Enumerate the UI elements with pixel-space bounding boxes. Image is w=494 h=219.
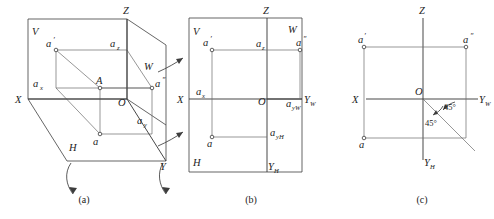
label-plane-h-a: H: [68, 142, 78, 153]
point-a-prime-a: [54, 48, 58, 52]
panel-a: V H W X Y Z O A a ′ a ″ a a x a y: [14, 5, 170, 206]
label-ax-a: a x: [33, 78, 43, 91]
label-az-b: a z: [256, 38, 265, 51]
label-axis-x-c: X: [351, 94, 359, 105]
label-ayw-base-b: a: [286, 98, 291, 109]
label-ayh-sub-b: yH: [275, 133, 285, 140]
axis-y-a: [127, 99, 166, 161]
label-a-prime-mark-b: ′: [210, 35, 212, 44]
label-axis-x-a: X: [14, 94, 22, 105]
label-angle-upper-c: 45°: [444, 102, 456, 112]
label-ayw-b: a yW: [286, 98, 301, 111]
label-plane-w-b: W: [288, 24, 298, 35]
label-ax-base-b: a: [196, 86, 201, 97]
label-point-A-a: A: [95, 75, 103, 86]
label-ay-base-a: a: [137, 115, 142, 126]
unfold-arrow-lower-head: [176, 132, 183, 138]
panel-b: V H W X Z O Y W Y H a ′ a ″ a: [158, 5, 316, 206]
plane-h-left-edge: [28, 99, 67, 161]
plane-edge-top-right: [127, 19, 166, 45]
label-a-prime-mark-c: ′: [364, 32, 366, 41]
label-plane-w-a: W: [144, 61, 154, 72]
point-a-dprime-a: [150, 86, 154, 90]
label-ax-b: a x: [196, 86, 205, 99]
technical-drawing-svg: V H W X Y Z O A a ′ a ″ a a x a y: [0, 0, 494, 219]
label-az-a: a z: [110, 38, 120, 51]
label-axis-yw-c: Y W: [479, 94, 491, 107]
label-plane-v-b: V: [193, 26, 201, 37]
label-plane-h-b: H: [192, 157, 202, 168]
label-ax-sub-b: x: [201, 92, 205, 99]
label-plane-v-a: V: [32, 26, 40, 37]
label-a-prime-c: a ′: [358, 32, 366, 45]
label-axis-z-a: Z: [123, 5, 129, 16]
point-a-top-a: [98, 132, 102, 136]
point-a-prime-b: [210, 48, 214, 52]
label-a-dprime-base-a: a: [155, 78, 160, 89]
label-axis-yw-sub-b: W: [310, 100, 316, 107]
caption-panel-c: (c): [416, 194, 427, 206]
point-a-prime-c: [362, 45, 366, 49]
label-axis-yh-c: Y H: [424, 157, 436, 170]
label-axis-yh-sub-b: H: [273, 167, 280, 174]
figure-root: V H W X Y Z O A a ′ a ″ a a x a y: [0, 0, 494, 219]
caption-panel-b: (b): [245, 194, 257, 206]
panel-c: Z X O Y W Y H a ′ a ″ a 45° 45° (c): [351, 5, 491, 206]
label-axis-yw-b: Y W: [304, 94, 316, 107]
label-a-dprime-a: a ″: [155, 76, 166, 89]
label-a-prime-b: a ′: [203, 35, 212, 48]
label-a-dprime-mark-b: ″: [303, 35, 307, 44]
label-axis-y-a: Y: [160, 161, 167, 172]
label-a-dprime-mark-a: ″: [162, 76, 166, 85]
label-ayh-b: a yH: [270, 127, 285, 140]
label-ayh-base-b: a: [270, 127, 275, 138]
point-A-a: [98, 86, 102, 90]
label-axis-z-c: Z: [419, 5, 425, 16]
label-a-dprime-b: a ″: [296, 35, 307, 48]
label-a-prime-base-b: a: [203, 37, 208, 48]
panel-a-rotation-arrows: [67, 163, 170, 194]
label-origin-a: O: [118, 97, 126, 108]
label-ay-sub-a: y: [143, 121, 147, 128]
label-origin-b: O: [258, 96, 266, 107]
caption-panel-a: (a): [78, 194, 89, 206]
label-az-base-a: a: [110, 38, 115, 49]
label-origin-c: O: [415, 86, 423, 97]
label-a-top-c: a: [359, 139, 364, 150]
label-a-top-a: a: [93, 136, 98, 147]
unfold-arrow-upper-head: [176, 58, 183, 64]
label-axis-x-b: X: [176, 94, 184, 105]
label-a-prime-base-c: a: [358, 34, 363, 45]
label-a-prime-a: a ′: [46, 36, 55, 49]
label-ayw-sub-b: yW: [291, 104, 301, 111]
label-ax-base-a: a: [33, 78, 38, 89]
angle-arc-lower-head-c: [433, 110, 438, 115]
label-a-dprime-c: a ″: [463, 32, 474, 45]
label-axis-yh-sub-c: H: [429, 163, 436, 170]
line-a-ax: [56, 88, 100, 134]
label-axis-z-b: Z: [263, 5, 269, 16]
line-A-aprime: [56, 50, 100, 88]
label-a-dprime-mark-c: ″: [470, 32, 474, 41]
label-az-sub-a: z: [116, 44, 120, 51]
label-a-dprime-base-c: a: [463, 34, 468, 45]
label-a-top-b: a: [207, 138, 212, 149]
label-angle-lower-c: 45°: [425, 118, 437, 128]
label-az-base-b: a: [256, 38, 261, 49]
label-az-sub-b: z: [261, 44, 265, 51]
point-a-dprime-c: [464, 45, 468, 49]
label-ay-a: a y: [137, 115, 147, 128]
label-axis-yw-sub-c: W: [485, 100, 491, 107]
point-a-dprime-b: [298, 48, 302, 52]
label-a-prime-mark-a: ′: [53, 36, 55, 45]
label-a-prime-base-a: a: [46, 38, 51, 49]
label-a-dprime-base-b: a: [296, 37, 301, 48]
label-ax-sub-a: x: [39, 84, 43, 91]
